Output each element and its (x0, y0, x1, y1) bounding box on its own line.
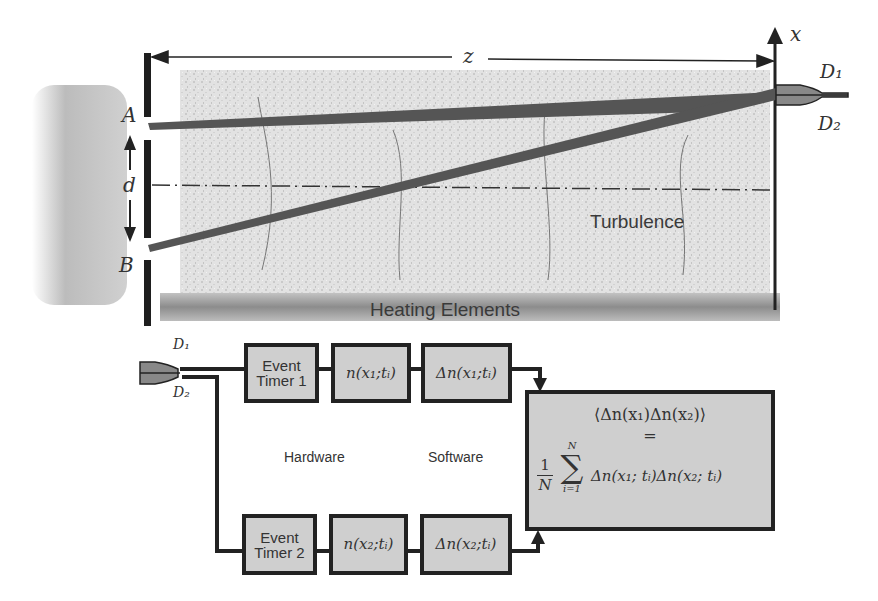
detector-top (776, 85, 848, 105)
light-source-glow (32, 85, 127, 305)
event-timer-1-label: Event Timer 1 (248, 347, 315, 399)
aperture-plate (144, 53, 151, 326)
separation-d-label: d (123, 173, 136, 197)
fraction-denominator: N (537, 476, 553, 495)
result-fraction: 1 N (537, 456, 553, 495)
dn-x1-label: Δn(x₁;tᵢ) (425, 347, 508, 399)
arrow-into-result-top (533, 378, 547, 392)
detector-1-label-bottom: D₁ (173, 336, 190, 352)
detector-1-label-top: D₁ (820, 60, 843, 82)
result-lhs: ⟨Δn(x₁)Δn(x₂)⟩ (527, 405, 773, 424)
n-x2-label: n(x₂;tᵢ) (333, 518, 404, 571)
detector-2-label-bottom: D₂ (173, 384, 190, 400)
event-timer-2-label: Event Timer 2 (246, 518, 313, 571)
event-timer-1-line2: Timer 1 (256, 373, 306, 388)
heating-elements-label: Heating Elements (370, 299, 520, 321)
event-timer-1-line1: Event (262, 358, 300, 373)
arrow-into-result-bottom (531, 530, 545, 544)
software-label: Software (428, 449, 483, 465)
detector-bottom (140, 362, 180, 384)
x-axis-label: x (790, 22, 801, 46)
n-x1-label: n(x₁;tᵢ) (335, 347, 407, 399)
hardware-label: Hardware (284, 449, 345, 465)
detector-2-label-top: D₂ (818, 112, 841, 134)
fraction-numerator: 1 (537, 456, 553, 476)
sum-symbol: ∑ (555, 451, 589, 483)
dn-x2-label: Δn(x₂;tᵢ) (424, 518, 508, 571)
summation: N ∑ i=1 (555, 440, 589, 494)
event-timer-2-line1: Event (260, 530, 298, 545)
event-timer-2-line2: Timer 2 (254, 545, 304, 560)
z-label: z (463, 44, 474, 68)
aperture-b-label: B (119, 253, 134, 277)
result-rhs: Δn(x₁; tᵢ)Δn(x₂; tᵢ) (591, 467, 722, 485)
turbulence-label: Turbulence (590, 211, 684, 233)
aperture-a-label: A (122, 103, 136, 127)
